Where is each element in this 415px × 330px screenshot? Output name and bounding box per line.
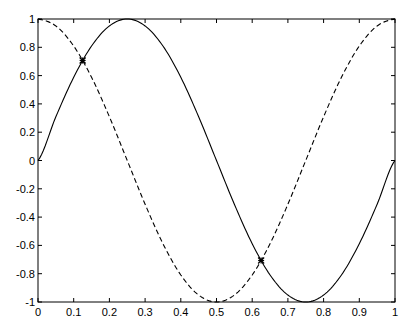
x-tick-label: 0.3 [137, 306, 152, 318]
intersection-marker [258, 258, 264, 264]
x-tick-label: 0.6 [245, 306, 260, 318]
x-tick-label: 0.2 [102, 306, 117, 318]
series-line-0 [38, 19, 395, 302]
x-tick-label: 0.5 [209, 306, 224, 318]
y-tick-label: 1 [29, 13, 35, 25]
x-tick-label: 0 [35, 306, 41, 318]
y-tick-label: 0.6 [20, 70, 35, 82]
y-tick-label: -0.4 [16, 211, 35, 223]
x-axis: 00.10.20.30.40.50.60.70.80.91 [35, 19, 398, 318]
intersection-marker [80, 57, 86, 63]
plot-area [38, 19, 395, 302]
y-tick-label: -1 [25, 296, 35, 308]
x-tick-label: 0.4 [173, 306, 188, 318]
line-chart: 00.10.20.30.40.50.60.70.80.91 -1-0.8-0.6… [0, 0, 415, 330]
x-tick-label: 0.1 [66, 306, 81, 318]
x-tick-label: 0.9 [352, 306, 367, 318]
y-tick-label: -0.2 [16, 183, 35, 195]
y-tick-label: 0.2 [20, 126, 35, 138]
y-axis: -1-0.8-0.6-0.4-0.200.20.40.60.81 [16, 13, 395, 308]
y-tick-label: -0.6 [16, 239, 35, 251]
x-tick-label: 1 [392, 306, 398, 318]
x-tick-label: 0.7 [280, 306, 295, 318]
y-tick-label: -0.8 [16, 268, 35, 280]
y-tick-label: 0.8 [20, 41, 35, 53]
y-tick-label: 0 [29, 155, 35, 167]
x-tick-label: 0.8 [316, 306, 331, 318]
y-tick-label: 0.4 [20, 98, 35, 110]
